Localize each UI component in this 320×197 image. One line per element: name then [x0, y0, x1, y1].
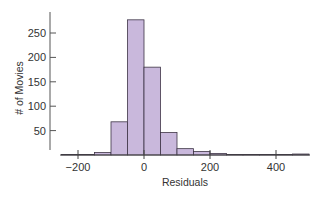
y-tick-label: 250	[28, 27, 46, 39]
x-tick-label: 200	[201, 161, 219, 173]
histogram-chart: 50100150200250 −2000200400 Residuals # o…	[0, 0, 320, 197]
y-tick-label: 100	[28, 100, 46, 112]
y-tick-label: 150	[28, 76, 46, 88]
histogram-bars	[62, 20, 310, 155]
histogram-bar	[128, 20, 145, 155]
histogram-bar	[111, 122, 128, 155]
x-axis-title: Residuals	[162, 176, 208, 188]
x-tick-label: −200	[66, 161, 91, 173]
y-tick-label: 50	[34, 125, 46, 137]
y-axis-title: # of Movies	[13, 61, 25, 115]
histogram-bar	[144, 67, 161, 155]
x-tick-label: 0	[141, 161, 147, 173]
histogram-bar	[161, 133, 178, 155]
y-tick-label: 200	[28, 51, 46, 63]
x-tick-label: 400	[267, 161, 285, 173]
histogram-bar	[177, 149, 194, 155]
y-axis-ticks: 50100150200250	[28, 27, 56, 137]
